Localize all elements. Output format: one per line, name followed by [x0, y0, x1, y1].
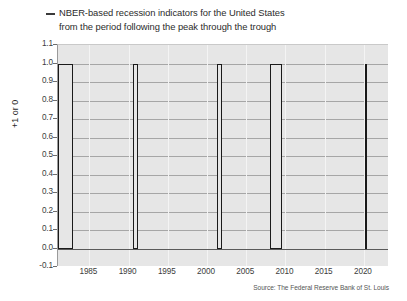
grid-line-horizontal: [58, 175, 388, 176]
y-axis-tick-mark: [53, 266, 57, 267]
legend-label-line-1: NBER-based recession indicators for the …: [59, 6, 285, 20]
grid-line-horizontal: [58, 156, 388, 157]
x-axis-tick-label: 1990: [119, 268, 137, 276]
recession-bar: [133, 64, 139, 249]
grid-line-horizontal: [58, 193, 388, 194]
grid-line-horizontal: [58, 64, 388, 65]
x-axis-tick-label: 2020: [354, 268, 372, 276]
x-axis-tick-labels: 19851990199520002005201020152020: [57, 268, 388, 282]
recession-bar: [365, 64, 367, 249]
legend-line-dash-icon: [46, 13, 55, 15]
plot-area: [57, 44, 388, 266]
grid-line-horizontal: [58, 212, 388, 213]
x-axis-tick-label: 1985: [79, 268, 97, 276]
grid-line-horizontal: [58, 138, 388, 139]
x-axis-tick-label: 2010: [276, 268, 294, 276]
x-axis-tick-label: 2000: [197, 268, 215, 276]
grid-line-vertical: [325, 45, 326, 266]
grid-line-horizontal: [58, 230, 388, 231]
source-note: Source: The Federal Reserve Bank of St. …: [253, 284, 389, 291]
chart-legend: NBER-based recession indicators for the …: [46, 6, 376, 33]
grid-line-horizontal: [58, 101, 388, 102]
grid-line-vertical: [285, 45, 286, 266]
legend-label: NBER-based recession indicators for the …: [59, 6, 285, 33]
recession-bar: [58, 64, 73, 249]
grid-line-vertical: [246, 45, 247, 266]
y-axis-tick-marks: [0, 44, 57, 266]
legend-label-line-2: from the period following the peak throu…: [59, 20, 285, 34]
x-axis-tick-label: 2005: [236, 268, 254, 276]
grid-line-horizontal: [58, 119, 388, 120]
grid-line-vertical: [207, 45, 208, 266]
recession-bar: [270, 64, 282, 249]
x-axis-tick-label: 2015: [315, 268, 333, 276]
plot-inner: [58, 45, 388, 266]
recession-bar: [217, 64, 222, 249]
grid-line-vertical: [168, 45, 169, 266]
zero-baseline: [58, 249, 388, 250]
grid-line-vertical: [129, 45, 130, 266]
grid-line-horizontal: [58, 82, 388, 83]
grid-line-vertical: [89, 45, 90, 266]
x-axis-tick-label: 1995: [158, 268, 176, 276]
